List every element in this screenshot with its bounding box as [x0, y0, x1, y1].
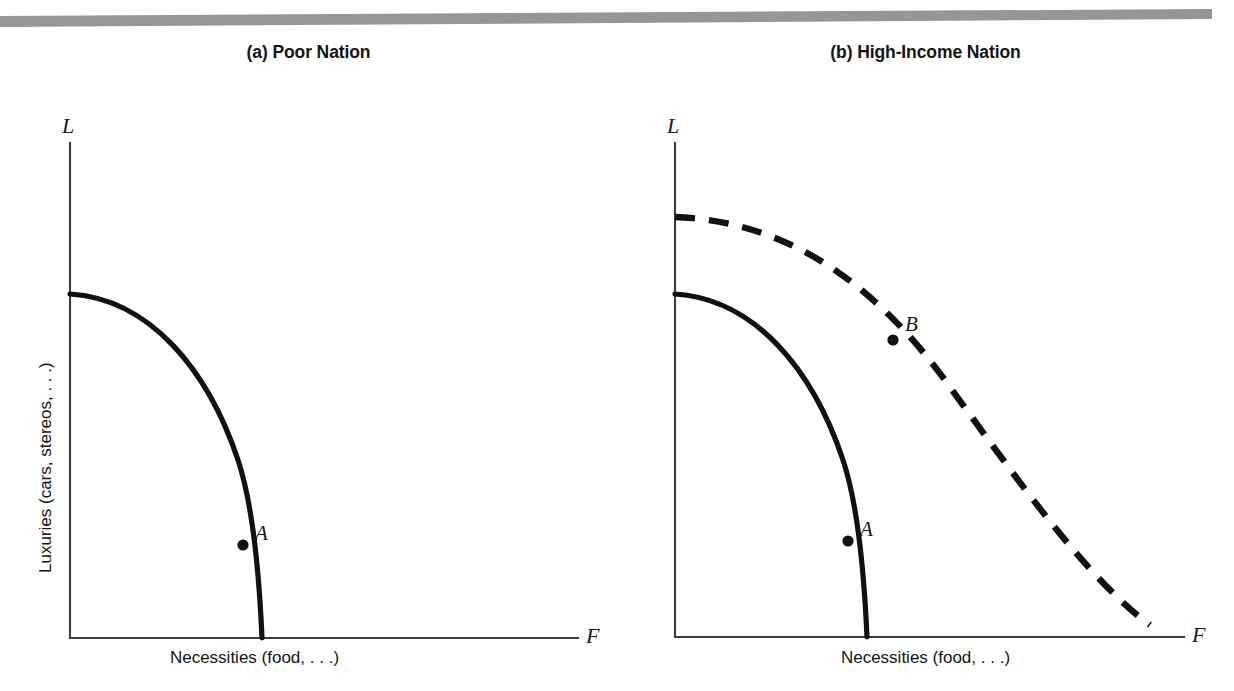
x-axis-symbol-label: F	[585, 623, 600, 648]
panel-poor-nation: (a) Poor Nation L F A Necessities (food,…	[0, 0, 617, 691]
plot-high-income-nation: L F A B	[617, 0, 1234, 691]
x-axis-caption-high-income-nation: Necessities (food, . . .)	[617, 648, 1234, 668]
panel-high-income-nation: (b) High-Income Nation L F A B Necessiti…	[617, 0, 1234, 691]
point-b-label: B	[905, 312, 918, 336]
point-a-label: A	[858, 517, 873, 541]
x-axis-caption-poor-nation: Necessities (food, . . .)	[0, 648, 563, 668]
ppf-curve-solid	[70, 294, 262, 638]
ppf-curve-dashed-expanded	[675, 217, 1150, 625]
x-axis-symbol-label: F	[1191, 622, 1206, 647]
y-axis-symbol-label: L	[61, 113, 74, 138]
point-a-marker	[237, 539, 248, 550]
point-b-marker	[887, 334, 898, 345]
y-axis-symbol-label: L	[666, 113, 679, 138]
point-a-marker	[842, 535, 853, 546]
plot-poor-nation: L F A	[0, 0, 617, 691]
y-axis-caption-poor-nation: Luxuries (cars, stereos, . . .)	[36, 362, 56, 573]
figure-root: (a) Poor Nation L F A Necessities (food,…	[0, 0, 1234, 691]
ppf-curve-solid	[675, 294, 867, 637]
point-a-label: A	[253, 521, 268, 545]
